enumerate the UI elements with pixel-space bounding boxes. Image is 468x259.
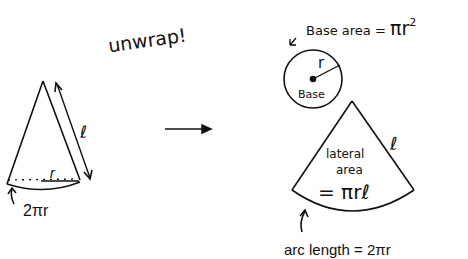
sector-label-line2: area (336, 163, 363, 177)
transform-arrow (165, 125, 211, 133)
sector-label-line1: lateral (326, 147, 364, 161)
cone-circumference-label: 2πr (23, 202, 49, 219)
cone-unwrap-diagram: unwrap! ℓ r 2πr Base area = πr2 r Base (0, 0, 468, 259)
base-center-dot (311, 77, 316, 82)
base-inner-label: Base (298, 88, 325, 101)
cone-left-edge (7, 81, 43, 184)
cone-radius-label: r (50, 165, 56, 181)
cone-base-front-arc (7, 182, 80, 190)
base-annotation-arrow (290, 38, 296, 45)
cone (7, 81, 92, 204)
base-area-annotation: Base area = πr2 (306, 16, 416, 39)
cone-base-back-dashed (8, 179, 78, 180)
sector-slant-label: ℓ (389, 133, 397, 154)
cone-slant-label: ℓ (79, 122, 87, 142)
arc-length-label: arc length = 2πr (284, 241, 391, 258)
sector-label-line3: = πrℓ (318, 180, 370, 204)
unwrap-note: unwrap! (107, 24, 188, 57)
base-radius-label: r (318, 54, 325, 72)
